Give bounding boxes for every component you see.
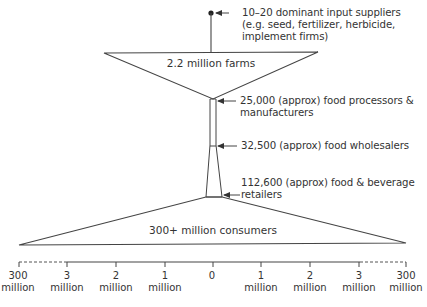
axis-tick-label: 3 million — [50, 270, 83, 294]
farms-label: 2.2 million farms — [167, 57, 255, 69]
tick-unit: million — [50, 282, 83, 294]
axis-ticks — [19, 262, 406, 267]
diagram-graphics — [0, 0, 427, 307]
middle-tube-right-edge — [216, 99, 222, 197]
retailers-annotation: 112,600 (approx) food & beverage retaile… — [241, 177, 415, 201]
annotation-line: retailers — [241, 189, 415, 201]
consumers-label: 300+ million consumers — [149, 224, 277, 236]
tick-value: 2 — [293, 270, 326, 282]
annotation-line: (e.g. seed, fertilizer, herbicide, — [242, 19, 401, 31]
tick-value: 1 — [244, 270, 277, 282]
food-system-funnel-diagram: 2.2 million farms 300+ million consumers… — [0, 0, 427, 307]
axis-tick-label: 2 million — [99, 270, 132, 294]
axis-tick-label: 3 million — [342, 270, 375, 294]
input-suppliers-annotation: 10–20 dominant input suppliers (e.g. see… — [242, 7, 401, 43]
annotation-line: 112,600 (approx) food & beverage — [241, 177, 415, 189]
axis-tick-label: 300 million — [1, 270, 34, 294]
tick-unit: million — [148, 282, 181, 294]
tick-unit: million — [342, 282, 375, 294]
annotation-line: 32,500 (approx) food wholesalers — [241, 140, 409, 152]
tick-unit: million — [293, 282, 326, 294]
middle-tube-left-edge — [206, 99, 210, 197]
tick-value: 0 — [209, 270, 215, 282]
axis-tick-label: 0 — [209, 270, 215, 282]
annotation-line: 10–20 dominant input suppliers — [242, 7, 401, 19]
annotation-line: manufacturers — [240, 107, 414, 119]
annotation-line: 25,000 (approx) food processors & — [240, 95, 414, 107]
wholesalers-annotation: 32,500 (approx) food wholesalers — [241, 140, 409, 152]
tick-unit: million — [244, 282, 277, 294]
tick-unit: million — [389, 282, 422, 294]
tick-value: 3 — [342, 270, 375, 282]
consumers-funnel — [19, 197, 406, 245]
tick-value: 2 — [99, 270, 132, 282]
tick-unit: million — [1, 282, 34, 294]
tick-value: 1 — [148, 270, 181, 282]
axis-tick-label: 2 million — [293, 270, 326, 294]
processors-annotation: 25,000 (approx) food processors & manufa… — [240, 95, 414, 119]
tick-value: 300 — [1, 270, 34, 282]
axis-tick-label: 300 million — [389, 270, 422, 294]
axis-tick-label: 1 million — [148, 270, 181, 294]
annotation-line: implement firms) — [242, 31, 401, 43]
axis-tick-label: 1 million — [244, 270, 277, 294]
tick-unit: million — [99, 282, 132, 294]
tick-value: 3 — [50, 270, 83, 282]
tick-value: 300 — [389, 270, 422, 282]
